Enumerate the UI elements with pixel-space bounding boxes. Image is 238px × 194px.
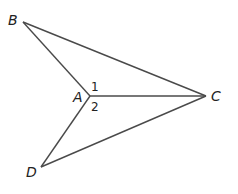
- point-label-b: B: [8, 12, 18, 28]
- point-label-a: A: [72, 89, 83, 105]
- angle-label-2: 2: [91, 100, 99, 114]
- point-label-d: D: [26, 164, 37, 180]
- angle-label-1: 1: [91, 80, 99, 94]
- segment-ab: [23, 22, 90, 96]
- segment-bc: [23, 22, 206, 96]
- point-label-c: C: [211, 88, 221, 104]
- geometry-diagram: B A C D 1 2: [0, 0, 238, 194]
